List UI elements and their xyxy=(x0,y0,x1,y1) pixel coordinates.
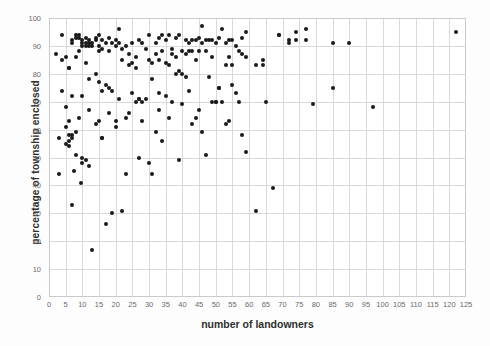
data-point xyxy=(234,91,238,95)
y-tick-label: 100 xyxy=(0,14,41,23)
x-tick-label: 105 xyxy=(393,300,406,309)
x-tick-label: 100 xyxy=(376,300,389,309)
data-point xyxy=(254,63,258,67)
data-point xyxy=(160,139,164,143)
y-tick-label: 50 xyxy=(0,153,41,162)
data-point xyxy=(107,49,111,53)
data-point xyxy=(164,38,168,42)
data-point xyxy=(184,75,188,79)
data-point xyxy=(164,94,168,98)
data-point xyxy=(150,77,154,81)
x-tick-label: 85 xyxy=(328,300,336,309)
data-point xyxy=(167,116,171,120)
data-point xyxy=(230,83,234,87)
data-point xyxy=(170,47,174,51)
data-point xyxy=(90,248,94,252)
plot-area xyxy=(49,18,466,297)
data-point xyxy=(347,41,351,45)
y-tick-label: 80 xyxy=(0,69,41,78)
data-point xyxy=(130,91,134,95)
x-tick-label: 45 xyxy=(195,300,203,309)
data-point xyxy=(174,55,178,59)
data-point xyxy=(87,164,91,168)
data-point xyxy=(100,47,104,51)
data-point xyxy=(210,55,214,59)
scatter-chart-figure: number of landowners percentage of towns… xyxy=(0,0,490,346)
data-point xyxy=(264,100,268,104)
y-tick-label: 70 xyxy=(0,97,41,106)
data-point xyxy=(331,41,335,45)
data-point xyxy=(180,102,184,106)
data-point xyxy=(150,172,154,176)
data-point xyxy=(240,133,244,137)
data-point xyxy=(134,55,138,59)
data-point xyxy=(157,91,161,95)
data-point xyxy=(147,161,151,165)
data-point xyxy=(294,38,298,42)
data-point xyxy=(200,41,204,45)
x-tick-label: 20 xyxy=(112,300,120,309)
data-point xyxy=(127,111,131,115)
data-point xyxy=(154,41,158,45)
data-point xyxy=(220,100,224,104)
data-point xyxy=(200,130,204,134)
data-point xyxy=(204,153,208,157)
data-point xyxy=(230,63,234,67)
data-point xyxy=(100,136,104,140)
data-point xyxy=(214,41,218,45)
data-point xyxy=(74,55,78,59)
data-point xyxy=(80,94,84,98)
data-point xyxy=(194,116,198,120)
data-point xyxy=(57,136,61,140)
data-point xyxy=(244,55,248,59)
data-point xyxy=(197,49,201,53)
data-point xyxy=(60,33,64,37)
data-point xyxy=(331,86,335,90)
data-point xyxy=(124,44,128,48)
data-point xyxy=(130,41,134,45)
data-point xyxy=(454,30,458,34)
data-point xyxy=(224,63,228,67)
x-tick-label: 40 xyxy=(178,300,186,309)
y-tick-label: 10 xyxy=(0,265,41,274)
data-point xyxy=(120,58,124,62)
data-point xyxy=(304,38,308,42)
x-tick-label: 15 xyxy=(95,300,103,309)
x-tick-label: 60 xyxy=(245,300,253,309)
data-point xyxy=(147,33,151,37)
data-point xyxy=(104,41,108,45)
data-point xyxy=(217,36,221,40)
data-point xyxy=(100,89,104,93)
data-point xyxy=(170,100,174,104)
data-point xyxy=(217,86,221,90)
data-point xyxy=(177,158,181,162)
data-point xyxy=(77,116,81,120)
data-point xyxy=(70,94,74,98)
data-point xyxy=(90,44,94,48)
data-point xyxy=(64,105,68,109)
x-tick-label: 65 xyxy=(262,300,270,309)
data-point xyxy=(220,27,224,31)
y-tick-label: 60 xyxy=(0,125,41,134)
x-tick-label: 125 xyxy=(460,300,473,309)
data-point xyxy=(254,209,258,213)
data-point xyxy=(230,38,234,42)
data-point xyxy=(70,203,74,207)
data-point xyxy=(311,102,315,106)
data-point xyxy=(287,41,291,45)
data-point xyxy=(117,27,121,31)
x-tick-label: 30 xyxy=(145,300,153,309)
data-point xyxy=(94,38,98,42)
data-point xyxy=(244,150,248,154)
data-point xyxy=(294,30,298,34)
data-point xyxy=(110,89,114,93)
data-point xyxy=(261,58,265,62)
data-point xyxy=(190,122,194,126)
data-point xyxy=(107,36,111,40)
data-point xyxy=(167,33,171,37)
x-tick-label: 50 xyxy=(212,300,220,309)
data-point xyxy=(197,108,201,112)
y-tick-label: 0 xyxy=(0,293,41,302)
data-point xyxy=(127,52,131,56)
data-point xyxy=(124,172,128,176)
